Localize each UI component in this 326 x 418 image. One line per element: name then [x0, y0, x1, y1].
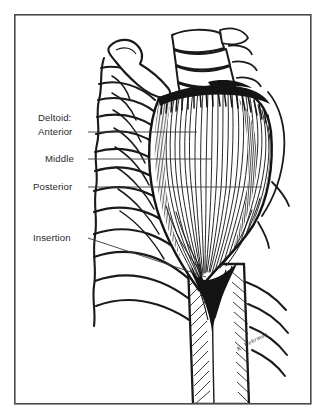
- label-middle: Middle: [45, 153, 74, 164]
- label-deltoid-heading: Deltoid:: [38, 112, 71, 123]
- label-insertion: Insertion: [33, 232, 71, 243]
- label-posterior: Posterior: [33, 181, 73, 192]
- anatomy-figure: Deltoid: Anterior Middle Posterior Inser…: [0, 0, 326, 418]
- illustration-root: Deltoid: Anterior Middle Posterior Inser…: [0, 0, 326, 418]
- label-anterior: Anterior: [38, 126, 73, 137]
